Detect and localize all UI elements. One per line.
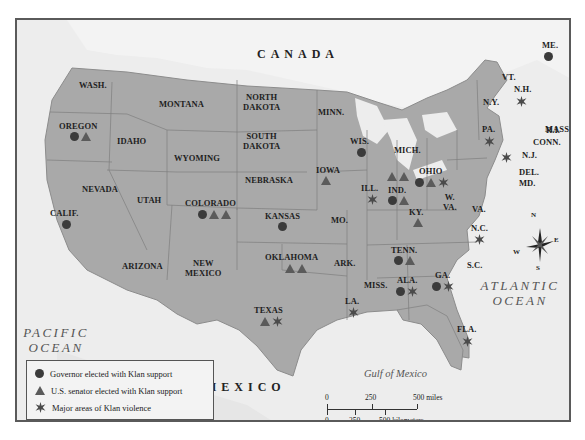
- senator-triangle-icon: [426, 178, 436, 187]
- scale-miles-250: 250: [365, 393, 376, 402]
- scale-tick: [372, 404, 373, 409]
- state-label-north-dakota: NORTH DAKOTA: [243, 92, 280, 112]
- label-pacific-ocean: PACIFIC OCEAN: [21, 325, 91, 355]
- markers-la: [348, 307, 359, 318]
- state-label-nj: N.J.: [522, 150, 537, 160]
- markers-ky: [413, 218, 423, 227]
- scale-line: [327, 409, 417, 410]
- violence-burst-icon: [443, 281, 454, 292]
- state-label-iowa: IOWA: [316, 165, 340, 175]
- scale-km-0: 0: [325, 416, 329, 422]
- state-label-minn: MINN.: [318, 107, 344, 117]
- legend-item-violence: Major areas of Klan violence: [27, 399, 213, 416]
- state-label-conn: CONN.: [533, 137, 561, 147]
- state-label-ny: N.Y.: [483, 97, 499, 107]
- state-label-wis: WIS.: [350, 136, 369, 146]
- governor-circle-icon: [432, 282, 441, 291]
- senator-triangle-icon: [209, 210, 219, 219]
- label-pacific-line1: PACIFIC: [21, 325, 91, 340]
- scale-tick: [355, 410, 356, 415]
- markers-fla: [462, 336, 473, 347]
- governor-circle-icon: [394, 256, 403, 265]
- governor-circle-icon: [35, 369, 44, 378]
- markers-oregon: [70, 132, 91, 141]
- markers-nc: [474, 234, 485, 245]
- governor-circle-icon: [388, 196, 397, 205]
- markers-ala: [396, 286, 418, 297]
- label-pacific-line2: OCEAN: [21, 340, 91, 355]
- markers-wis: [357, 148, 366, 157]
- markers-ind-bottom: [388, 196, 409, 205]
- markers-oklahoma: [285, 264, 307, 273]
- senator-triangle-icon: [321, 176, 331, 185]
- label-atlantic-line1: ATLANTIC: [475, 278, 565, 293]
- governor-circle-icon: [357, 148, 366, 157]
- markers-ohio: [415, 177, 449, 188]
- violence-burst-icon: [407, 286, 418, 297]
- map-frame: CANADA MEXICO PACIFIC OCEAN ATLANTIC OCE…: [15, 18, 571, 422]
- state-label-wva-line1: W.: [443, 192, 457, 202]
- state-label-fla: FLA.: [457, 324, 477, 334]
- state-label-md: MD.: [519, 178, 536, 188]
- state-label-ri: R.I.: [546, 125, 560, 135]
- state-label-pa: PA.: [482, 124, 495, 134]
- scale-km-250: 250: [349, 416, 360, 422]
- senator-triangle-icon: [81, 132, 91, 141]
- state-label-oregon: OREGON: [59, 121, 97, 131]
- violence-burst-icon: [367, 194, 378, 205]
- legend-item-senator: U.S. senator elected with Klan support: [27, 382, 213, 399]
- state-label-kansas: KANSAS: [265, 211, 300, 221]
- state-label-tenn: TENN.: [391, 245, 417, 255]
- senator-triangle-icon: [297, 264, 307, 273]
- state-label-north-dakota-line1: NORTH: [243, 92, 280, 102]
- state-label-new-mexico-line2: MEXICO: [185, 268, 222, 278]
- markers-ill: [367, 194, 378, 205]
- scale-miles-500: 500 miles: [413, 393, 442, 402]
- state-label-arizona: ARIZONA: [122, 261, 163, 271]
- violence-burst-icon: [516, 96, 527, 107]
- markers-tenn: [394, 256, 415, 265]
- senator-triangle-icon: [387, 172, 397, 181]
- state-label-wash: WASH.: [79, 80, 107, 90]
- state-label-ind: IND.: [388, 185, 406, 195]
- compass-w: W: [513, 247, 520, 257]
- state-label-texas: TEXAS: [254, 305, 283, 315]
- scale-bar: 0 250 500 miles 0 250 500 kilometers: [319, 390, 469, 422]
- senator-triangle-icon: [221, 210, 231, 219]
- markers-nh: [516, 96, 527, 107]
- legend-label: Major areas of Klan violence: [52, 403, 151, 413]
- state-label-south-dakota-line1: SOUTH: [243, 131, 280, 141]
- state-label-sc: S.C.: [467, 260, 483, 270]
- markers-texas: [260, 316, 283, 327]
- scale-km-500: 500 kilometers: [379, 416, 424, 422]
- governor-circle-icon: [415, 178, 424, 187]
- governor-circle-icon: [62, 220, 71, 229]
- state-label-mo: MO.: [331, 215, 348, 225]
- scale-miles-0: 0: [325, 393, 329, 402]
- state-label-miss: MISS.: [364, 280, 387, 290]
- map-legend: Governor elected with Klan support U.S. …: [26, 360, 214, 420]
- label-mexico: MEXICO: [205, 380, 286, 395]
- markers-nj: [501, 152, 512, 163]
- markers-ind-top: [387, 172, 409, 181]
- label-canada: CANADA: [257, 47, 339, 62]
- governor-circle-icon: [278, 222, 287, 231]
- scale-tick: [385, 410, 386, 415]
- scale-tick: [327, 404, 328, 415]
- markers-kansas: [278, 222, 287, 231]
- state-label-va: VA.: [472, 204, 486, 214]
- markers-me: [544, 52, 553, 61]
- governor-circle-icon: [70, 132, 79, 141]
- compass-rose-icon: [520, 220, 560, 270]
- state-label-new-mexico-line1: NEW: [185, 258, 222, 268]
- state-label-idaho: IDAHO: [117, 136, 146, 146]
- markers-pa: [484, 136, 495, 147]
- state-label-vt: VT.: [502, 72, 516, 82]
- state-label-mich: MICH.: [394, 145, 421, 155]
- state-label-utah: UTAH: [137, 195, 161, 205]
- senator-triangle-icon: [413, 218, 423, 227]
- state-label-south-dakota-line2: DAKOTA: [243, 141, 280, 151]
- legend-label: Governor elected with Klan support: [50, 369, 172, 379]
- governor-circle-icon: [544, 52, 553, 61]
- state-label-ark: ARK.: [334, 258, 355, 268]
